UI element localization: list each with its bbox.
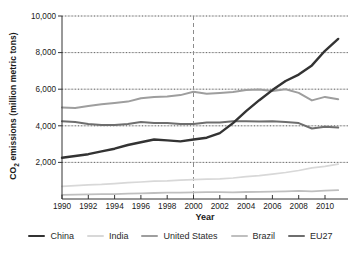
y-axis-title: CO2 emissions (million metric tons): [8, 32, 20, 179]
x-tick-label: 2004: [237, 202, 256, 211]
legend-swatch: [28, 235, 45, 237]
x-tick-label: 2010: [316, 202, 335, 211]
legend-item-india: India: [87, 231, 129, 241]
series-line-brazil: [62, 190, 338, 195]
legend-swatch: [231, 235, 248, 237]
y-tick-label: 6,000: [36, 85, 57, 94]
co2-emissions-line-chart: 2,0004,0006,0008,00010,00019901992199419…: [0, 0, 361, 254]
legend-item-china: China: [28, 231, 74, 241]
legend-swatch: [141, 235, 158, 237]
legend-swatch: [87, 235, 104, 237]
x-tick-label: 2008: [290, 202, 309, 211]
x-tick-label: 2006: [263, 202, 282, 211]
x-tick-label: 1992: [79, 202, 98, 211]
legend-label: United States: [163, 231, 217, 241]
series-line-eu27: [62, 121, 338, 128]
legend-item-brazil: Brazil: [231, 231, 276, 241]
series-line-china: [62, 39, 338, 158]
x-tick-label: 2000: [184, 202, 203, 211]
plot-area: 2,0004,0006,0008,00010,00019901992199419…: [0, 0, 361, 254]
x-tick-label: 1990: [53, 202, 72, 211]
y-tick-label: 10,000: [31, 12, 56, 21]
x-tick-label: 2002: [211, 202, 230, 211]
y-tick-label: 8,000: [36, 48, 57, 57]
series-line-india: [62, 164, 338, 186]
x-tick-label: 1996: [132, 202, 151, 211]
legend-item-eu27: EU27: [288, 231, 333, 241]
legend-swatch: [288, 235, 305, 237]
series-line-united-states: [62, 89, 338, 108]
x-tick-label: 1998: [158, 202, 177, 211]
legend-label: India: [109, 231, 129, 241]
legend-label: China: [50, 231, 74, 241]
legend-item-united-states: United States: [141, 231, 217, 241]
y-tick-label: 4,000: [36, 122, 57, 131]
legend: ChinaIndiaUnited StatesBrazilEU27: [0, 231, 361, 241]
legend-label: Brazil: [253, 231, 276, 241]
legend-label: EU27: [310, 231, 333, 241]
x-axis-title: Year: [195, 212, 214, 222]
y-tick-label: 2,000: [36, 158, 57, 167]
x-tick-label: 1994: [105, 202, 124, 211]
